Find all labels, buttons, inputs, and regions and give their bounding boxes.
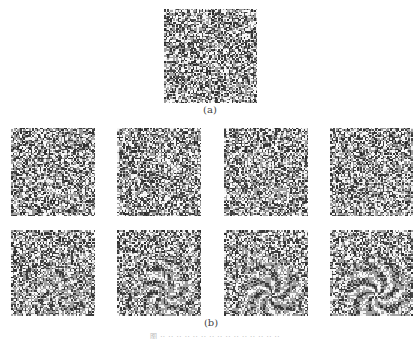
panel-b-image-7 bbox=[224, 230, 308, 316]
panel-a-label: (a) bbox=[190, 104, 230, 115]
panel-b-image-2 bbox=[117, 128, 201, 216]
panel-b-image-5 bbox=[11, 230, 95, 316]
panel-b-image-4 bbox=[330, 128, 413, 216]
panel-b-image-3 bbox=[224, 128, 308, 216]
figure-caption: 图 ·· ·· ·· ·· ·· ·· ·· ·· ·· ·· ·· ·· ··… bbox=[30, 331, 400, 339]
panel-b-label: (b) bbox=[191, 317, 231, 328]
panel-b-image-1 bbox=[11, 128, 95, 216]
panel-b-image-6 bbox=[117, 230, 201, 316]
panel-a-image bbox=[164, 9, 257, 103]
panel-b-image-8 bbox=[330, 230, 413, 316]
